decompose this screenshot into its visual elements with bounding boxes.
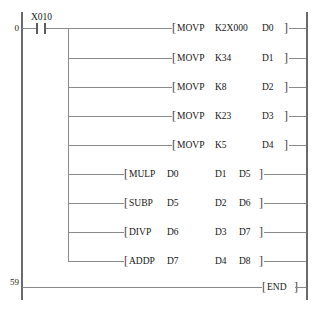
instruction-operand2-5: D4 — [262, 139, 274, 152]
bracket-open-icon: [ — [172, 139, 176, 152]
rung-wire-7-tail — [264, 203, 306, 204]
instruction-block-3[interactable]: [ MOVP K8 D2 ] — [172, 81, 288, 94]
instruction-block-6[interactable]: [ MULP D0 D1 D5 ] — [124, 168, 263, 181]
rung-wire-6 — [69, 174, 124, 175]
instruction-operand1-9: D7 — [167, 255, 179, 268]
contact-bar-left — [36, 23, 38, 34]
instruction-operand1-2: K34 — [215, 52, 231, 65]
instruction-name-6: MULP — [129, 168, 155, 181]
instruction-block-1[interactable]: [ MOVP K2X000 D0 ] — [172, 22, 288, 35]
bracket-open-icon: [ — [262, 281, 266, 294]
bracket-open-icon: [ — [172, 110, 176, 123]
bracket-open-icon: [ — [172, 81, 176, 94]
instruction-operand1-8: D6 — [167, 226, 179, 239]
rung-wire-8-tail — [264, 232, 306, 233]
instruction-name-8: DIVP — [129, 226, 151, 239]
rung-wire-end-tail — [295, 287, 306, 288]
instruction-name-1: MOVP — [177, 22, 204, 35]
instruction-block-9[interactable]: [ ADDP D7 D4 D8 ] — [124, 255, 263, 268]
rung-wire-1-tail — [289, 28, 306, 29]
instruction-block-5[interactable]: [ MOVP K5 D4 ] — [172, 139, 288, 152]
bracket-close-icon: ] — [284, 52, 288, 65]
instruction-name-5: MOVP — [177, 139, 204, 152]
instruction-name-2: MOVP — [177, 52, 204, 65]
left-power-rail — [21, 12, 23, 300]
right-power-rail — [306, 12, 308, 300]
step-number-59: 59 — [2, 277, 19, 287]
instruction-name-3: MOVP — [177, 81, 204, 94]
instruction-operand3-7: D6 — [239, 197, 251, 210]
instruction-operand1-7: D5 — [167, 197, 179, 210]
instruction-operand1-5: K5 — [215, 139, 227, 152]
rung-wire-9 — [69, 261, 124, 262]
bracket-close-icon: ] — [284, 139, 288, 152]
instruction-operand2-1: D0 — [262, 22, 274, 35]
instruction-block-4[interactable]: [ MOVP K23 D3 ] — [172, 110, 288, 123]
instruction-operand2-2: D1 — [262, 52, 274, 65]
instruction-operand3-9: D8 — [239, 255, 251, 268]
instruction-operand2-4: D3 — [262, 110, 274, 123]
rung-wire-1 — [69, 28, 172, 29]
instruction-operand1-1: K2X000 — [215, 22, 248, 35]
contact-x010-normally-open[interactable] — [36, 23, 46, 34]
bracket-close-icon: ] — [259, 226, 263, 239]
ladder-diagram: 0 59 X010 [ MOVP K2X000 D0 ] [ MOVP K34 … — [0, 0, 325, 314]
wire-rail-to-contact — [22, 28, 36, 29]
instruction-name-9: ADDP — [129, 255, 155, 268]
bracket-close-icon: ] — [259, 168, 263, 181]
instruction-operand1-4: K23 — [215, 110, 231, 123]
rung-wire-4-tail — [289, 116, 306, 117]
bracket-close-icon: ] — [284, 110, 288, 123]
rung-wire-9-tail — [264, 261, 306, 262]
instruction-operand2-9: D4 — [215, 255, 227, 268]
instruction-block-2[interactable]: [ MOVP K34 D1 ] — [172, 52, 288, 65]
instruction-block-8[interactable]: [ DIVP D6 D3 D7 ] — [124, 226, 263, 239]
bracket-open-icon: [ — [124, 226, 128, 239]
instruction-operand2-3: D2 — [262, 81, 274, 94]
bracket-close-icon: ] — [259, 255, 263, 268]
bracket-close-icon: ] — [284, 81, 288, 94]
rung-wire-2-tail — [289, 58, 306, 59]
rung-wire-7 — [69, 203, 124, 204]
rung-wire-3 — [69, 87, 172, 88]
instruction-operand1-3: K8 — [215, 81, 227, 94]
bracket-open-icon: [ — [124, 255, 128, 268]
wire-contact-to-branch — [46, 28, 69, 29]
step-number-0: 0 — [2, 23, 19, 33]
instruction-operand2-8: D3 — [215, 226, 227, 239]
instruction-name-end: END — [267, 281, 287, 294]
instruction-operand3-8: D7 — [239, 226, 251, 239]
rung-wire-3-tail — [289, 87, 306, 88]
bracket-open-icon: [ — [172, 52, 176, 65]
rung-wire-5-tail — [289, 145, 306, 146]
rung-wire-2 — [69, 58, 172, 59]
rung-wire-end — [22, 287, 262, 288]
instruction-operand1-6: D0 — [167, 168, 179, 181]
bracket-open-icon: [ — [124, 197, 128, 210]
bracket-close-icon: ] — [284, 22, 288, 35]
rung-wire-4 — [69, 116, 172, 117]
rung-wire-8 — [69, 232, 124, 233]
bracket-open-icon: [ — [124, 168, 128, 181]
bracket-close-icon: ] — [259, 197, 263, 210]
instruction-name-4: MOVP — [177, 110, 204, 123]
contact-label-x010: X010 — [31, 12, 52, 22]
instruction-operand3-6: D5 — [239, 168, 251, 181]
instruction-operand2-7: D2 — [215, 197, 227, 210]
instruction-operand2-6: D1 — [215, 168, 227, 181]
instruction-block-7[interactable]: [ SUBP D5 D2 D6 ] — [124, 197, 263, 210]
bracket-open-icon: [ — [172, 22, 176, 35]
rung-wire-6-tail — [264, 174, 306, 175]
rung-wire-5 — [69, 145, 172, 146]
instruction-name-7: SUBP — [129, 197, 153, 210]
